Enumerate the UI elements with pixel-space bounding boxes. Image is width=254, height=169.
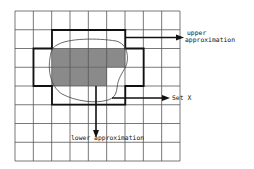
lower-approximation-arrow: [93, 86, 99, 138]
upper-label-line2: approximation: [185, 36, 235, 44]
rough-set-diagram: upper approximation Set X lower approxim…: [0, 0, 254, 169]
upper-approximation-arrow: [126, 35, 184, 41]
set-x-label: Set X: [172, 94, 191, 102]
lower-approximation-label: lower approximation: [71, 134, 144, 142]
